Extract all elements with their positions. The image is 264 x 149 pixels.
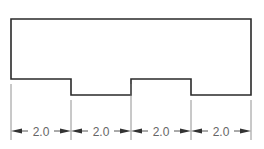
part-outline <box>11 19 251 95</box>
arrow-right-icon <box>180 129 191 134</box>
arrow-left-icon <box>11 129 22 134</box>
dimension-label: 2.0 <box>153 125 170 139</box>
dimension-2: 2.0 <box>71 125 131 139</box>
dimension-label: 2.0 <box>93 125 110 139</box>
arrow-left-icon <box>191 129 202 134</box>
arrow-left-icon <box>71 129 82 134</box>
drawing-canvas: 2.0 2.0 2.0 2.0 <box>0 0 264 149</box>
dimension-label: 2.0 <box>213 125 230 139</box>
arrow-left-icon <box>131 129 142 134</box>
dimension-3: 2.0 <box>131 125 191 139</box>
arrow-right-icon <box>120 129 131 134</box>
dimension-label: 2.0 <box>33 125 50 139</box>
arrow-right-icon <box>60 129 71 134</box>
dimension-1: 2.0 <box>11 125 71 139</box>
dimension-4: 2.0 <box>191 125 251 139</box>
arrow-right-icon <box>240 129 251 134</box>
